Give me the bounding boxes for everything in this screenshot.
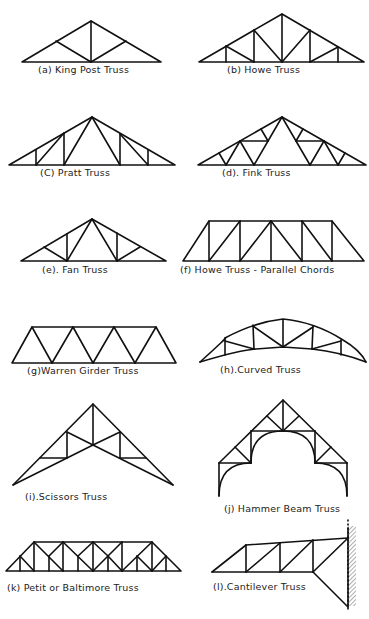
- label-curved-truss: (h).Curved Truss: [220, 364, 301, 375]
- king-post-truss-drawing: [22, 21, 161, 62]
- label-king-post-truss: (a) King Post Truss: [38, 64, 129, 75]
- label-fan-truss: (e). Fan Truss: [42, 264, 108, 275]
- cantilever-truss-drawing: [212, 520, 356, 612]
- label-pratt-truss: (C) Pratt Truss: [40, 167, 110, 178]
- howe-truss-drawing: [199, 14, 364, 62]
- label-fink-truss: (d). Fink Truss: [222, 167, 291, 178]
- label-petit-baltimore-truss: (k) Petit or Baltimore Truss: [7, 582, 139, 593]
- label-hammer-beam-truss: (j) Hammer Beam Truss: [224, 503, 340, 514]
- label-howe-truss: (b) Howe Truss: [227, 64, 300, 75]
- label-scissors-truss: (i).Scissors Truss: [25, 491, 107, 502]
- howe-parallel-chords-truss-drawing: [183, 221, 364, 261]
- label-howe-parallel-chords-truss: (f) Howe Truss - Parallel Chords: [180, 264, 334, 275]
- truss-diagram-canvas: [0, 0, 369, 619]
- pratt-truss-drawing: [9, 117, 175, 165]
- warren-girder-truss-drawing: [12, 327, 176, 363]
- petit-baltimore-truss-drawing: [6, 542, 181, 571]
- fink-truss-drawing: [198, 117, 366, 165]
- scissors-truss-drawing: [13, 404, 173, 485]
- label-warren-girder-truss: (g)Warren Girder Truss: [27, 365, 139, 376]
- fan-truss-drawing: [21, 219, 166, 261]
- hammer-beam-truss-drawing: [219, 400, 347, 496]
- curved-truss-drawing: [200, 319, 366, 362]
- label-cantilever-truss: (l).Cantilever Truss: [213, 581, 306, 592]
